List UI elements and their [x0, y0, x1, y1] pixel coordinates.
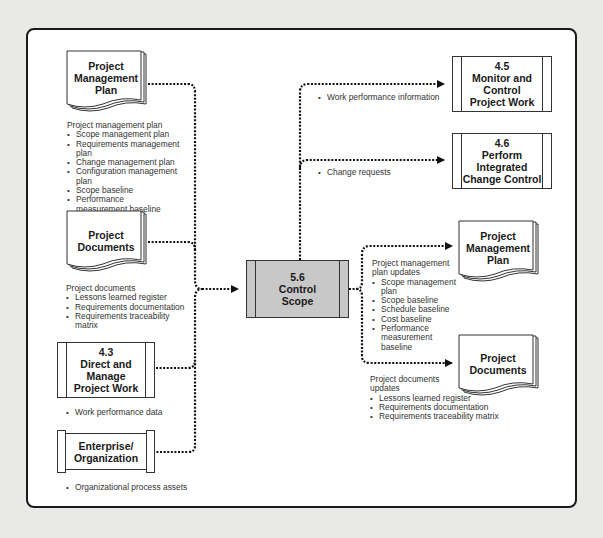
label-line: Project Work — [470, 96, 535, 108]
label-line: Plan — [95, 84, 117, 96]
label-line: Manage — [74, 370, 139, 382]
label-line: Project Work — [74, 382, 139, 394]
output-process-4-6[interactable]: 4.6 Perform Integrated Change Control — [452, 133, 552, 189]
output-list-documents-updates: Project documents updates Lessons learne… — [370, 375, 500, 421]
label-line: Project — [480, 230, 516, 242]
list-item: Scope management plan — [381, 278, 472, 297]
process-number: 4.3 — [74, 346, 139, 358]
label-line: Project — [480, 352, 516, 364]
label-line: Plan — [487, 254, 509, 266]
label-line: Management — [74, 72, 138, 84]
input-project-management-plan[interactable]: Project Management Plan — [67, 60, 145, 96]
label-line: Control — [470, 84, 535, 96]
label-line: Monitor and — [470, 72, 535, 84]
list-item: Requirements management plan — [76, 140, 192, 159]
process-number: 4.5 — [470, 60, 535, 72]
list-item: Requirements traceability matrix — [75, 312, 191, 331]
center-process-control-scope[interactable]: 5.6 Control Scope — [246, 260, 349, 318]
input-list-project-management-plan: Project management plan Scope management… — [67, 121, 192, 214]
list-item: Work performance information — [327, 93, 448, 102]
list-item: Requirements traceability matrix — [379, 412, 500, 421]
label-line: Control — [279, 283, 316, 295]
output-process-4-5[interactable]: 4.5 Monitor and Control Project Work — [452, 56, 552, 112]
process-number: 4.6 — [463, 137, 542, 149]
output-list-monitor-control: Work performance information — [318, 93, 448, 102]
label-line: Change Control — [463, 173, 542, 185]
label-line: Documents — [77, 241, 134, 253]
label-line: Perform — [463, 149, 542, 161]
input-list-direct-manage: Work performance data — [66, 408, 191, 417]
input-list-project-documents: Project documents Lessons learned regist… — [66, 284, 191, 330]
input-enterprise-organization[interactable]: Enterprise/ Organization — [57, 433, 155, 470]
label-line: Direct and — [74, 358, 139, 370]
label-line: Enterprise/ — [74, 440, 138, 452]
label-line: Integrated — [463, 161, 542, 173]
input-list-enterprise: Organizational process assets — [66, 483, 216, 492]
list-item: Organizational process assets — [75, 483, 216, 492]
input-project-documents[interactable]: Project Documents — [67, 229, 145, 253]
output-project-documents[interactable]: Project Documents — [459, 352, 537, 376]
label-line: Scope — [279, 295, 316, 307]
list-item: Change requests — [327, 168, 448, 177]
label-line: Project — [88, 229, 124, 241]
scroll-cap-left — [57, 430, 66, 473]
label-line: Management — [466, 242, 530, 254]
label-line: Organization — [74, 452, 138, 464]
process-number: 5.6 — [279, 271, 316, 283]
label-line: Project — [88, 60, 124, 72]
input-process-4-3[interactable]: 4.3 Direct and Manage Project Work — [57, 342, 155, 398]
scroll-cap-right — [146, 430, 155, 473]
list-item: Configuration management plan — [76, 167, 192, 186]
list-item: Work performance data — [75, 408, 191, 417]
output-list-change-control: Change requests — [318, 168, 448, 177]
